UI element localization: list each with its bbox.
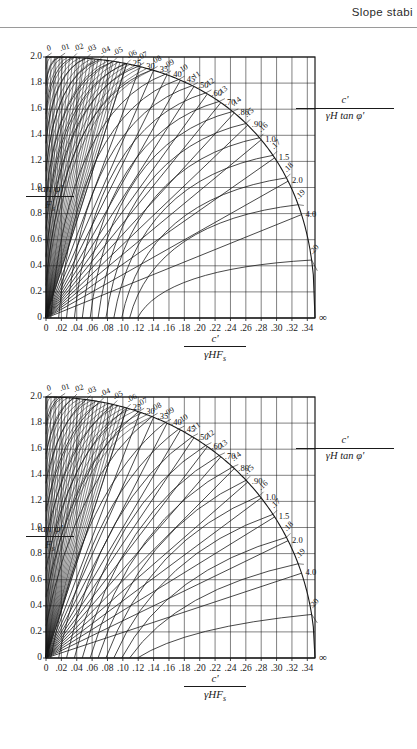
page-header: Slope stabi: [0, 0, 417, 30]
radial-ratio-label: 2.0: [292, 175, 303, 185]
radial-ratio-label: .80: [238, 463, 249, 473]
radial-ratio-label: .80: [238, 107, 249, 117]
y-axis-tick-label: 1.2: [16, 495, 42, 505]
chart-legend-ratio: c'γH tan φ': [290, 434, 400, 462]
y-axis-title: tan φ'Fs: [22, 522, 78, 553]
radial-ratio-label: .70: [225, 451, 236, 461]
running-head: Slope stabi: [352, 6, 413, 18]
radial-ratio-label: .50: [198, 432, 209, 442]
figure-slope-stability-chart-bottom: 00.20.40.60.81.01.21.41.61.82.00.02.04.0…: [0, 372, 417, 732]
radial-ratio-label: .90: [252, 476, 263, 486]
y-axis-tick-label: 0.4: [16, 600, 42, 610]
y-axis-tick-label: 1.6: [16, 443, 42, 453]
y-axis-tick-label: 1.4: [16, 129, 42, 139]
chart-legend-ratio: c'γH tan φ': [290, 94, 400, 122]
y-axis-tick-label: 0.2: [16, 626, 42, 636]
y-axis-tick-label: 1.4: [16, 469, 42, 479]
y-axis-tick-label: 0.2: [16, 286, 42, 296]
radial-ratio-label: .35: [158, 64, 169, 74]
radial-ratio-label: ∞: [319, 311, 327, 323]
radial-ratio-label: 1.5: [279, 152, 290, 162]
radial-ratio-label: .60: [211, 88, 222, 98]
radial-ratio-label: 4.0: [306, 567, 317, 577]
radial-ratio-label: .30: [144, 61, 155, 71]
radial-ratio-label: .45: [185, 74, 196, 84]
header-rule: [0, 27, 417, 28]
x-axis-tick-label: .34: [298, 663, 316, 673]
y-axis-tick-label: 0.4: [16, 260, 42, 270]
radial-ratio-label: .45: [185, 424, 196, 434]
y-axis-tick-label: 1.8: [16, 77, 42, 87]
radial-ratio-label: 1.0: [265, 492, 276, 502]
y-axis-tick-label: 0: [16, 652, 42, 662]
radial-ratio-label: .50: [198, 80, 209, 90]
radial-ratio-label: 4.0: [306, 209, 317, 219]
y-axis-tick-label: 0.6: [16, 574, 42, 584]
radial-ratio-label: .40: [171, 417, 182, 427]
y-axis-tick-label: 0.6: [16, 234, 42, 244]
x-axis-tick-label: .34: [298, 323, 316, 333]
radial-ratio-label: 2.0: [292, 535, 303, 545]
radial-ratio-label: .90: [252, 119, 263, 129]
radial-ratio-label: .30: [144, 406, 155, 416]
radial-ratio-label: ∞: [319, 651, 327, 663]
radial-ratio-label: .25: [131, 58, 142, 68]
figure-slope-stability-chart-top: 00.20.40.60.81.01.21.41.61.82.00.02.04.0…: [0, 32, 417, 392]
y-axis-tick-label: 1.8: [16, 417, 42, 427]
y-axis-title: tan φ'Fs: [22, 182, 78, 213]
y-axis-tick-label: 2.0: [16, 391, 42, 401]
y-axis-tick-label: 1.2: [16, 155, 42, 165]
radial-ratio-label: .70: [225, 97, 236, 107]
radial-ratio-label: .60: [211, 441, 222, 451]
x-axis-title: c'γHFs: [160, 332, 270, 363]
x-axis-title: c'γHFs: [160, 672, 270, 703]
y-axis-tick-label: 2.0: [16, 51, 42, 61]
y-axis-tick-label: 0: [16, 312, 42, 322]
radial-ratio-label: 1.5: [279, 511, 290, 521]
radial-ratio-label: .40: [171, 69, 182, 79]
radial-ratio-label: .35: [158, 411, 169, 421]
radial-ratio-label: .25: [131, 402, 142, 412]
radial-ratio-label: 1.0: [265, 134, 276, 144]
y-axis-tick-label: 1.6: [16, 103, 42, 113]
